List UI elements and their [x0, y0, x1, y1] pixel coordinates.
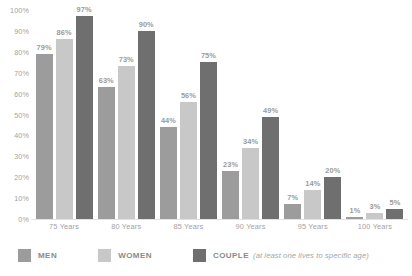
y-axis-tick: 40% — [14, 131, 29, 140]
legend-item-men[interactable]: MEN — [18, 249, 57, 262]
legend-swatch-men-icon — [18, 249, 31, 262]
bar-rect — [56, 39, 73, 219]
bar-value-label: 23% — [223, 160, 238, 169]
x-axis-baseline — [31, 219, 408, 220]
bar-rect — [242, 148, 259, 219]
legend-item-couple[interactable]: COUPLE (at least one lives to specific a… — [193, 249, 369, 262]
bar-rect — [304, 190, 321, 219]
bar-men[interactable]: 7% — [284, 10, 301, 219]
bar-women[interactable]: 86% — [56, 10, 73, 219]
bar-men[interactable]: 63% — [98, 10, 115, 219]
bar-couple[interactable]: 5% — [386, 10, 403, 219]
bar-women[interactable]: 14% — [304, 10, 321, 219]
bar-rect — [138, 31, 155, 219]
y-axis-tick: 50% — [14, 110, 29, 119]
bar-rect — [284, 204, 301, 219]
bar-rect — [262, 117, 279, 219]
bar-group: 63%73%90% — [95, 10, 157, 219]
bar-rect — [118, 66, 135, 219]
y-axis-tick: 100% — [10, 6, 29, 15]
y-axis-tick: 30% — [14, 152, 29, 161]
x-axis-tick: 100 Years — [344, 222, 406, 236]
bar-men[interactable]: 1% — [346, 10, 363, 219]
legend-label-women: WOMEN — [118, 251, 152, 260]
y-axis-tick: 80% — [14, 47, 29, 56]
y-axis-tick: 60% — [14, 89, 29, 98]
bar-couple[interactable]: 75% — [200, 10, 217, 219]
bar-value-label: 1% — [349, 206, 360, 215]
bar-value-label: 90% — [139, 20, 154, 29]
y-axis-tick: 10% — [14, 194, 29, 203]
bar-couple[interactable]: 90% — [138, 10, 155, 219]
bar-value-label: 34% — [243, 137, 258, 146]
bar-value-label: 7% — [287, 193, 298, 202]
bar-rect — [76, 16, 93, 219]
bar-couple[interactable]: 97% — [76, 10, 93, 219]
bar-men[interactable]: 79% — [36, 10, 53, 219]
bar-group: 23%34%49% — [220, 10, 282, 219]
bar-value-label: 63% — [99, 76, 114, 85]
bar-value-label: 44% — [161, 116, 176, 125]
bar-value-label: 14% — [305, 179, 320, 188]
bar-group: 7%14%20% — [282, 10, 344, 219]
bar-value-label: 3% — [369, 202, 380, 211]
bar-rect — [36, 54, 53, 219]
y-axis-tick: 70% — [14, 68, 29, 77]
bar-rect — [180, 102, 197, 219]
legend-label-men: MEN — [38, 251, 57, 260]
x-axis-tick: 75 Years — [33, 222, 95, 236]
bar-value-label: 97% — [77, 5, 92, 14]
bar-group: 44%56%75% — [157, 10, 219, 219]
bar-groups: 79%86%97%63%73%90%44%56%75%23%34%49%7%14… — [31, 10, 408, 219]
bar-rect — [366, 213, 383, 219]
bar-value-label: 49% — [263, 106, 278, 115]
bar-women[interactable]: 3% — [366, 10, 383, 219]
legend-swatch-women-icon — [98, 249, 111, 262]
bar-men[interactable]: 23% — [222, 10, 239, 219]
bar-value-label: 86% — [57, 28, 72, 37]
y-axis: 100%90%80%70%60%50%40%30%20%10%0% — [0, 10, 29, 219]
bar-women[interactable]: 34% — [242, 10, 259, 219]
bar-rect — [386, 209, 403, 219]
bar-women[interactable]: 73% — [118, 10, 135, 219]
bar-couple[interactable]: 49% — [262, 10, 279, 219]
y-axis-tick: 0% — [18, 215, 29, 224]
bar-couple[interactable]: 20% — [324, 10, 341, 219]
x-axis-tick: 85 Years — [157, 222, 219, 236]
bar-value-label: 75% — [201, 51, 216, 60]
bar-value-label: 20% — [325, 166, 340, 175]
x-axis-tick: 90 Years — [220, 222, 282, 236]
plot-area: 79%86%97%63%73%90%44%56%75%23%34%49%7%14… — [31, 10, 408, 219]
bar-rect — [324, 177, 341, 219]
y-axis-tick: 20% — [14, 173, 29, 182]
x-axis-tick: 80 Years — [95, 222, 157, 236]
bar-rect — [222, 171, 239, 219]
bar-value-label: 79% — [37, 43, 52, 52]
bar-value-label: 5% — [389, 198, 400, 207]
legend-swatch-couple-icon — [193, 249, 206, 262]
bar-group: 1%3%5% — [344, 10, 406, 219]
bar-women[interactable]: 56% — [180, 10, 197, 219]
bar-value-label: 73% — [119, 55, 134, 64]
bar-rect — [346, 217, 363, 219]
y-axis-tick: 90% — [14, 26, 29, 35]
legend-label-couple: COUPLE — [213, 251, 249, 260]
chart-legend: MEN WOMEN COUPLE (at least one lives to … — [18, 247, 369, 263]
bar-value-label: 56% — [181, 91, 196, 100]
bar-rect — [200, 62, 217, 219]
x-axis-tick: 95 Years — [282, 222, 344, 236]
x-axis: 75 Years80 Years85 Years90 Years95 Years… — [31, 222, 408, 236]
bar-men[interactable]: 44% — [160, 10, 177, 219]
bar-rect — [160, 127, 177, 219]
bar-chart: 100%90%80%70%60%50%40%30%20%10%0% 79%86%… — [0, 0, 412, 276]
legend-note-couple: (at least one lives to specific age) — [253, 251, 369, 260]
legend-item-women[interactable]: WOMEN — [98, 249, 152, 262]
bar-group: 79%86%97% — [33, 10, 95, 219]
bar-rect — [98, 87, 115, 219]
